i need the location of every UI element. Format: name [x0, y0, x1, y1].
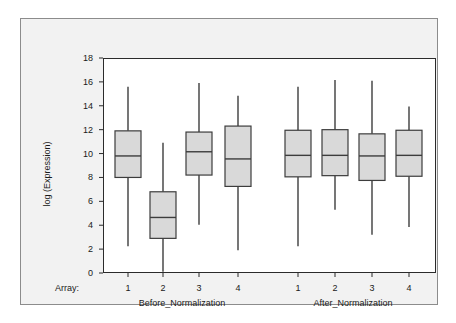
group-label-after: After_Normalization: [273, 298, 433, 308]
x-tick-label: 2: [153, 283, 173, 293]
x-tick-label: 4: [228, 283, 248, 293]
x-axis-prefix-label: Array:: [55, 283, 79, 293]
figure-container: 024681012141618 12341234 Array: Before_N…: [0, 0, 456, 323]
y-tick-label: 12: [71, 125, 93, 135]
x-tick-label: 1: [288, 283, 308, 293]
y-axis-label: log (Expression): [42, 141, 52, 206]
y-tick-label: 10: [71, 149, 93, 159]
y-tick-label: 14: [71, 101, 93, 111]
y-tick-label: 16: [71, 77, 93, 87]
x-tick-label: 3: [362, 283, 382, 293]
plot-area: [103, 58, 436, 273]
y-tick-label: 2: [71, 244, 93, 254]
group-label-before: Before_Normalization: [102, 298, 262, 308]
chart-panel: 024681012141618 12341234 Array: Before_N…: [20, 18, 438, 305]
x-tick-label: 2: [325, 283, 345, 293]
y-tick-label: 4: [71, 220, 93, 230]
x-tick-label: 3: [189, 283, 209, 293]
y-tick-label: 6: [71, 196, 93, 206]
y-tick-label: 0: [71, 268, 93, 278]
y-tick-label: 8: [71, 172, 93, 182]
x-tick-label: 1: [118, 283, 138, 293]
x-tick-label: 4: [399, 283, 419, 293]
y-tick-label: 18: [71, 53, 93, 63]
